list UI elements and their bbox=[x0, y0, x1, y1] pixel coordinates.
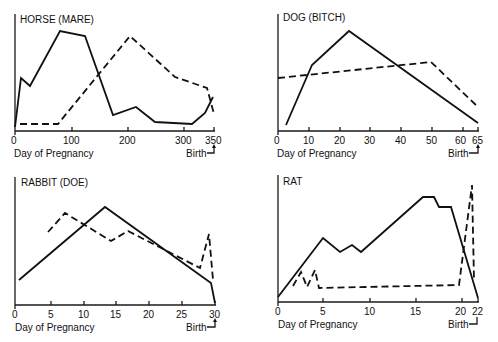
pregnancy-charts: HORSE (MARE) 0 100 200 300 350 Day of Pr… bbox=[0, 0, 498, 342]
horse-tick-100: 100 bbox=[63, 135, 80, 146]
rat-tick-15: 15 bbox=[410, 306, 422, 317]
rat-tick-10: 10 bbox=[364, 306, 376, 317]
rat-tick-20: 20 bbox=[455, 306, 467, 317]
rabbit-tick-5: 5 bbox=[48, 309, 54, 320]
rabbit-title: RABBIT (DOE) bbox=[21, 177, 88, 188]
rabbit-birth-label: Birth bbox=[186, 322, 207, 333]
rabbit-xlabel: Day of Pregnancy bbox=[15, 322, 95, 333]
rat-birth-arrow-icon bbox=[469, 317, 477, 324]
rabbit-tick-15: 15 bbox=[110, 309, 122, 320]
rabbit-tick-25: 25 bbox=[176, 309, 188, 320]
dog-birth-label: Birth bbox=[448, 148, 469, 159]
dog-tick-40: 40 bbox=[395, 135, 407, 146]
rat-birth-label: Birth bbox=[448, 319, 469, 330]
rabbit-tick-20: 20 bbox=[143, 309, 155, 320]
rat-tick-0: 0 bbox=[275, 306, 281, 317]
rat-panel: RAT 0 5 10 15 20 22 Day of Pregnancy Bir… bbox=[275, 175, 484, 330]
horse-tick-300: 300 bbox=[175, 135, 192, 146]
dog-tick-0: 0 bbox=[274, 135, 280, 146]
dog-tick-65: 65 bbox=[472, 135, 484, 146]
horse-panel: HORSE (MARE) 0 100 200 300 350 Day of Pr… bbox=[11, 14, 222, 159]
rabbit-tick-10: 10 bbox=[78, 309, 90, 320]
rabbit-dashed-line bbox=[48, 213, 213, 280]
dog-tick-20: 20 bbox=[334, 135, 346, 146]
horse-tick-200: 200 bbox=[119, 135, 136, 146]
rabbit-solid-line bbox=[19, 207, 215, 303]
dog-panel: DOG (BITCH) 0 10 20 30 40 50 60 65 Day o… bbox=[274, 12, 484, 159]
horse-tick-350: 350 bbox=[205, 135, 222, 146]
horse-title: HORSE (MARE) bbox=[20, 14, 94, 25]
dog-tick-30: 30 bbox=[364, 135, 376, 146]
horse-tick-0: 0 bbox=[11, 135, 17, 146]
rat-xlabel: Day of Pregnancy bbox=[278, 319, 358, 330]
rat-dashed-line bbox=[293, 185, 474, 288]
dog-title: DOG (BITCH) bbox=[283, 12, 345, 23]
horse-xlabel: Day of Pregnancy bbox=[14, 148, 94, 159]
horse-birth-label: Birth bbox=[186, 148, 207, 159]
rabbit-tick-0: 0 bbox=[12, 309, 18, 320]
rabbit-tick-30: 30 bbox=[209, 309, 221, 320]
rat-tick-22: 22 bbox=[472, 306, 484, 317]
dog-solid-line bbox=[286, 31, 478, 125]
rabbit-panel: RABBIT (DOE) 0 5 10 15 20 25 30 Day of P… bbox=[12, 177, 221, 333]
rat-tick-5: 5 bbox=[320, 306, 326, 317]
dog-tick-10: 10 bbox=[303, 135, 315, 146]
dog-xlabel: Day of Pregnancy bbox=[277, 148, 357, 159]
dog-tick-60: 60 bbox=[455, 135, 467, 146]
rat-title: RAT bbox=[283, 176, 302, 187]
dog-tick-50: 50 bbox=[426, 135, 438, 146]
dog-dashed-line bbox=[278, 62, 478, 107]
